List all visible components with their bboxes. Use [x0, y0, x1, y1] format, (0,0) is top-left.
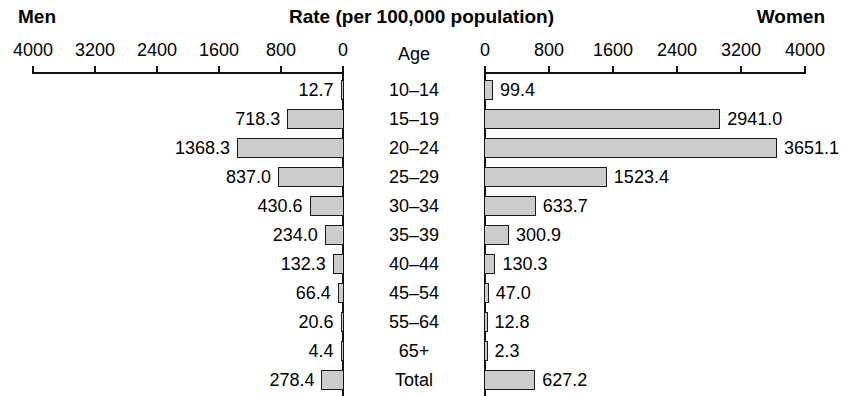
- age-group-label: 40–44: [389, 253, 439, 275]
- value-label-women: 1523.4: [614, 166, 669, 188]
- right-axis-tick: [804, 66, 806, 74]
- bar-women-30–34: [485, 196, 536, 216]
- left-axis-tick: [218, 66, 220, 74]
- value-label-women: 3651.1: [784, 137, 839, 159]
- age-group-label: 10–14: [389, 79, 439, 101]
- chart-title: Rate (per 100,000 population): [0, 6, 843, 28]
- right-axis-tick: [548, 66, 550, 74]
- value-label-men: 12.7: [298, 79, 333, 101]
- chart-row: 837.025–291523.4: [0, 164, 843, 193]
- bar-men-65+: [341, 341, 344, 361]
- bar-women-20–24: [485, 138, 777, 158]
- age-column-header: Age: [398, 44, 430, 65]
- right-tick-label-3200: 3200: [721, 40, 761, 61]
- age-group-label: 15–19: [389, 108, 439, 130]
- value-label-women: 300.9: [516, 224, 561, 246]
- age-group-label: 20–24: [389, 137, 439, 159]
- right-tick-label-0: 0: [480, 40, 490, 61]
- value-label-women: 12.8: [495, 311, 530, 333]
- bar-women-35–39: [485, 225, 509, 245]
- right-axis-tick: [612, 66, 614, 74]
- value-label-men: 1368.3: [175, 137, 230, 159]
- bar-women-25–29: [485, 167, 607, 187]
- age-group-label: 65+: [399, 340, 430, 362]
- value-label-women: 2.3: [495, 340, 520, 362]
- bar-men-10–14: [341, 80, 344, 100]
- value-label-women: 633.7: [543, 195, 588, 217]
- age-group-label: 35–39: [389, 224, 439, 246]
- value-label-men: 234.0: [273, 224, 318, 246]
- chart-row: 1368.320–243651.1: [0, 135, 843, 164]
- left-tick-label-0: 0: [338, 40, 348, 61]
- age-group-label: 25–29: [389, 166, 439, 188]
- chart-row: 66.445–5447.0: [0, 280, 843, 309]
- bar-men-20–24: [237, 138, 343, 158]
- bar-men-35–39: [325, 225, 343, 245]
- bar-women-45–54: [485, 283, 489, 303]
- value-label-women: 2941.0: [727, 108, 782, 130]
- left-axis-line: [33, 72, 343, 74]
- chart-row: 234.035–39300.9: [0, 222, 843, 251]
- left-tick-label-2400: 2400: [137, 40, 177, 61]
- left-tick-label-800: 800: [266, 40, 296, 61]
- value-label-men: 278.4: [269, 369, 314, 391]
- value-label-men: 4.4: [308, 340, 333, 362]
- value-label-women: 627.2: [542, 369, 587, 391]
- left-tick-label-4000: 4000: [13, 40, 53, 61]
- left-tick-label-3200: 3200: [75, 40, 115, 61]
- bar-men-15–19: [287, 109, 343, 129]
- bar-men-40–44: [333, 254, 343, 274]
- population-pyramid-chart: Men Rate (per 100,000 population) Women …: [0, 0, 843, 396]
- chart-row: 4.465+2.3: [0, 338, 843, 367]
- age-group-label: 30–34: [389, 195, 439, 217]
- value-label-men: 430.6: [258, 195, 303, 217]
- bar-men-30–34: [310, 196, 343, 216]
- chart-row: 12.710–1499.4: [0, 77, 843, 106]
- bar-women-10–14: [485, 80, 493, 100]
- chart-row: 718.315–192941.0: [0, 106, 843, 135]
- bar-women-55–64: [485, 312, 488, 332]
- bar-men-25–29: [278, 167, 343, 187]
- left-axis-tick: [94, 66, 96, 74]
- right-panel-title: Women: [757, 6, 825, 28]
- right-tick-label-1600: 1600: [593, 40, 633, 61]
- value-label-men: 66.4: [296, 282, 331, 304]
- right-axis-tick: [676, 66, 678, 74]
- value-label-men: 20.6: [298, 311, 333, 333]
- bar-men-Total: [321, 370, 343, 390]
- left-tick-label-1600: 1600: [199, 40, 239, 61]
- value-label-men: 718.3: [235, 108, 280, 130]
- value-label-women: 99.4: [500, 79, 535, 101]
- left-axis-tick: [156, 66, 158, 74]
- value-label-men: 837.0: [226, 166, 271, 188]
- right-tick-label-2400: 2400: [657, 40, 697, 61]
- age-group-label: Total: [395, 369, 433, 391]
- value-label-men: 132.3: [281, 253, 326, 275]
- bar-men-45–54: [338, 283, 343, 303]
- bar-men-55–64: [341, 312, 344, 332]
- right-tick-label-800: 800: [534, 40, 564, 61]
- age-group-label: 45–54: [389, 282, 439, 304]
- chart-row: 430.630–34633.7: [0, 193, 843, 222]
- right-tick-label-4000: 4000: [785, 40, 825, 61]
- age-group-label: 55–64: [389, 311, 439, 333]
- value-label-women: 130.3: [502, 253, 547, 275]
- bar-women-65+: [485, 341, 488, 361]
- bar-women-40–44: [485, 254, 495, 274]
- right-axis-line: [485, 72, 805, 74]
- left-axis-tick: [280, 66, 282, 74]
- chart-row: 278.4Total627.2: [0, 367, 843, 396]
- bar-women-Total: [485, 370, 535, 390]
- right-axis-tick: [740, 66, 742, 74]
- chart-row: 132.340–44130.3: [0, 251, 843, 280]
- bar-women-15–19: [485, 109, 720, 129]
- left-axis-tick: [32, 66, 34, 74]
- value-label-women: 47.0: [496, 282, 531, 304]
- chart-row: 20.655–6412.8: [0, 309, 843, 338]
